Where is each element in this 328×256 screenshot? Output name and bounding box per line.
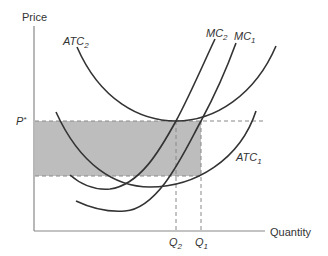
atc2-label: ATC2 bbox=[62, 35, 89, 50]
cost-curves-diagram: Price Quantity P* Q2 Q1 ATC2 MC2 MC1 ATC… bbox=[0, 0, 328, 256]
mc1-label: MC1 bbox=[234, 30, 256, 45]
q2-label: Q2 bbox=[169, 236, 183, 251]
x-axis-label: Quantity bbox=[270, 226, 311, 238]
atc1-label: ATC1 bbox=[235, 151, 262, 166]
y-axis-label: Price bbox=[22, 11, 47, 23]
q1-label: Q1 bbox=[195, 236, 208, 251]
atc2-curve bbox=[77, 46, 276, 121]
mc2-label: MC2 bbox=[206, 27, 228, 42]
price-star-label: P* bbox=[16, 115, 27, 127]
